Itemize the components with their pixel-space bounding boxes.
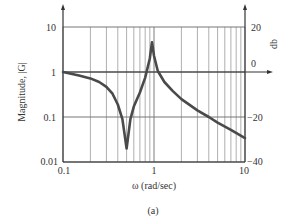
y-tick-10: 10 [46, 22, 56, 33]
y-tick-0.01: 0.01 [41, 156, 59, 167]
x-axis-label: ω (rad/sec) [132, 180, 176, 192]
db-tick-minus-40: −40 [247, 156, 263, 167]
y-tick-1: 1 [51, 67, 56, 78]
zero-db-arrow-icon [267, 70, 273, 74]
right-axis-arrow-icon [243, 4, 247, 10]
db-tick-minus-20: −20 [247, 112, 263, 123]
y-axis-label: Magnitude, |G| [16, 62, 27, 122]
figure-caption: (a) [147, 205, 158, 217]
x-tick-10: 10 [239, 165, 249, 176]
db-tick-20: 20 [251, 22, 261, 33]
x-tick-1: 1 [152, 165, 157, 176]
x-tick-0.1: 0.1 [58, 165, 71, 176]
bode-magnitude-chart: 10 1 0.1 0.01 20 0 −20 −40 0.1 1 10 ω (r… [0, 0, 293, 222]
left-axis-arrow-icon [61, 4, 65, 10]
db-tick-0: 0 [251, 58, 256, 69]
y-tick-0.1: 0.1 [44, 112, 57, 123]
y-axis-right-label: db [268, 39, 279, 49]
